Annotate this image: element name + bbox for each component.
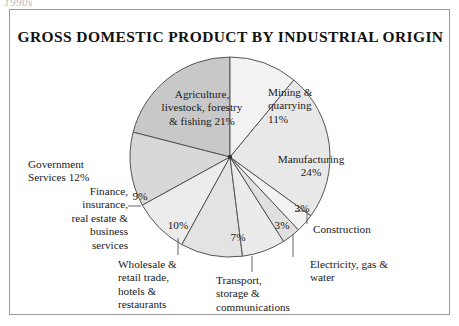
slice-pct-wholesale-retail: 10% xyxy=(158,219,198,231)
slice-label-electricity-gas-water: Electricity, gas & water xyxy=(310,258,430,285)
pie-center-dot xyxy=(228,155,232,159)
page-header-fragment: 1990s xyxy=(4,0,33,8)
slice-label-finance: Finance, insurance, real estate & busine… xyxy=(16,185,128,252)
slice-pct-transport: 7% xyxy=(218,231,258,243)
slice-label-construction: Construction xyxy=(313,223,423,236)
screenshot-canvas: 1990s GROSS DOMESTIC PRODUCT BY INDUSTRI… xyxy=(0,0,459,326)
slice-label-agriculture: Agriculture, livestock, forestry & fishi… xyxy=(132,88,272,128)
slice-label-wholesale-retail: Wholesale & retail trade, hotels & resta… xyxy=(118,258,218,312)
chart-frame: GROSS DOMESTIC PRODUCT BY INDUSTRIAL ORI… xyxy=(9,9,450,315)
slice-label-government-services: Government Services 12% xyxy=(28,158,148,185)
slice-pct-electricity-gas-water: 3% xyxy=(262,219,302,231)
slice-pct-construction: 3% xyxy=(282,202,322,214)
slice-label-manufacturing: Manufacturing 24% xyxy=(256,153,366,180)
slice-label-mining-quarrying: Mining & quarrying 11% xyxy=(268,86,378,126)
slice-pct-finance: 9% xyxy=(120,190,160,202)
